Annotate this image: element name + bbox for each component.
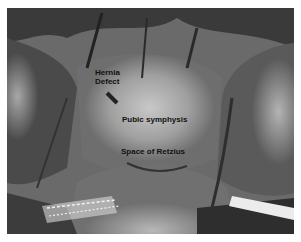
label-hernia-defect: Hernia Defect [95,68,120,86]
label-hernia-line2: Defect [95,77,120,86]
surgical-photo: Hernia Defect Pubic symphysis Space of R… [7,8,294,234]
label-hernia-line1: Hernia [95,68,120,77]
label-pubic-symphysis: Pubic symphysis [122,115,187,124]
label-space-of-retzius: Space of Retzius [121,147,185,156]
